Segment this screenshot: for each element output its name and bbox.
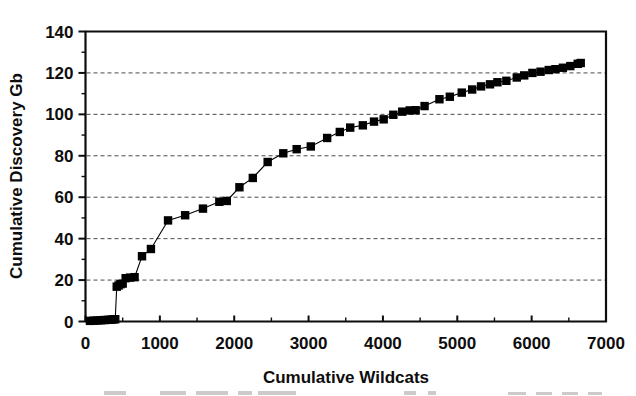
x-tick-label: 2000: [215, 334, 253, 353]
data-point: [111, 315, 119, 323]
data-point: [147, 245, 155, 253]
data-point: [323, 134, 331, 142]
data-point: [513, 73, 521, 81]
data-point: [520, 71, 528, 79]
data-point: [528, 69, 536, 77]
x-tick-label: 5000: [438, 334, 476, 353]
data-point: [551, 65, 559, 73]
data-point: [389, 111, 397, 119]
data-point: [336, 128, 344, 136]
y-tick-label: 80: [55, 147, 74, 166]
data-point: [536, 67, 544, 75]
data-point: [435, 95, 443, 103]
data-point: [379, 115, 387, 123]
data-point: [398, 107, 406, 115]
chart-figure: 020406080100120140 010002000300040005000…: [0, 0, 636, 396]
y-tick-label: 140: [45, 23, 73, 42]
x-tick-label: 0: [81, 334, 90, 353]
data-point: [215, 198, 223, 206]
data-point: [130, 273, 138, 281]
data-point: [164, 216, 172, 224]
y-axis-title: Cumulative Discovery Gb: [7, 73, 26, 279]
y-tick-label: 0: [64, 313, 73, 332]
data-point: [477, 82, 485, 90]
chart-canvas: 020406080100120140 010002000300040005000…: [0, 0, 636, 396]
data-point: [263, 158, 271, 166]
data-point: [411, 106, 419, 114]
data-point: [458, 88, 466, 96]
data-point: [559, 64, 567, 72]
y-axis-tick-labels: 020406080100120140: [45, 23, 73, 332]
x-tick-label: 4000: [364, 334, 402, 353]
data-point: [493, 78, 501, 86]
x-axis-title: Cumulative Wildcats: [263, 368, 429, 387]
data-point: [577, 59, 585, 67]
data-point: [199, 204, 207, 212]
y-tick-label: 40: [55, 230, 74, 249]
y-tick-label: 60: [55, 188, 74, 207]
y-tick-label: 100: [45, 105, 73, 124]
y-tick-label: 20: [55, 271, 74, 290]
data-point: [346, 123, 354, 131]
data-point: [279, 149, 287, 157]
data-point: [249, 174, 257, 182]
data-point: [370, 117, 378, 125]
data-point: [468, 85, 476, 93]
x-tick-label: 6000: [513, 334, 551, 353]
data-point: [235, 183, 243, 191]
y-tick-label: 120: [45, 64, 73, 83]
data-point: [359, 121, 367, 129]
data-point: [486, 80, 494, 88]
data-point: [138, 252, 146, 260]
data-point: [566, 62, 574, 70]
data-point: [223, 197, 231, 205]
x-axis-tick-labels: 01000200030004000500060007000: [81, 334, 625, 353]
data-point: [307, 142, 315, 150]
x-tick-label: 1000: [141, 334, 179, 353]
x-tick-label: 7000: [587, 334, 625, 353]
data-point: [420, 102, 428, 110]
data-point: [181, 211, 189, 219]
data-point: [502, 77, 510, 85]
x-tick-label: 3000: [290, 334, 328, 353]
data-point: [292, 145, 300, 153]
data-point: [446, 93, 454, 101]
